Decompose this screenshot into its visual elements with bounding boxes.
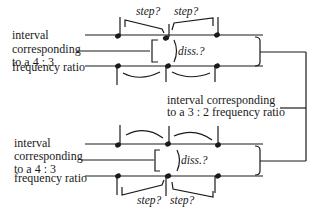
top-label-line-2: corresponding [12, 43, 81, 55]
bottom-label-line-2: corresponding [14, 150, 83, 162]
bottom-label-line-1: interval [14, 137, 51, 149]
bottom-diss-label: diss.? [181, 154, 208, 166]
middle-label-line-2: to a 3 : 2 frequency ratio [167, 106, 285, 118]
top-diss-label: diss.? [178, 45, 205, 57]
top-label-line-1: interval [12, 29, 49, 41]
top-step-label-1: step? [136, 5, 160, 17]
top-label-line-4: frequency ratio [12, 61, 85, 73]
bottom-step-label-2: step? [170, 194, 194, 206]
bottom-step-label-1: step? [137, 194, 161, 206]
top-step-label-2: step? [174, 5, 198, 17]
bottom-label-line-4: frequency ratio [14, 172, 87, 184]
